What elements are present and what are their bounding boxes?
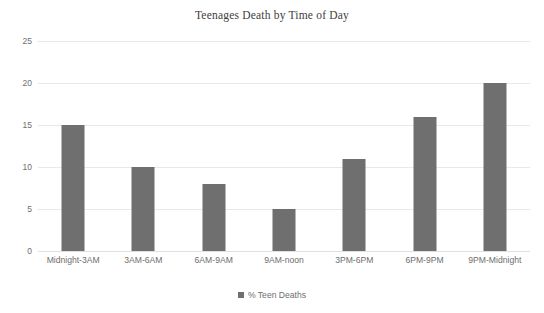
bar-slot (108, 41, 178, 251)
bar-slot (460, 41, 530, 251)
x-axis: Midnight-3AM3AM-6AM6AM-9AM9AM-noon3PM-6P… (38, 256, 530, 272)
gridline (38, 251, 530, 252)
x-axis-tick-label: 3PM-6PM (319, 256, 389, 265)
bar[interactable] (202, 184, 225, 251)
bar-slot (249, 41, 319, 251)
bar[interactable] (62, 125, 85, 251)
x-axis-tick-label: 3AM-6AM (108, 256, 178, 265)
legend-item-label: % Teen Deaths (248, 291, 306, 300)
y-axis-tick-label: 5 (0, 205, 32, 214)
y-axis-tick-label: 20 (0, 79, 32, 88)
bar[interactable] (132, 167, 155, 251)
y-axis: 0510152025 (0, 41, 32, 251)
chart-title: Teenages Death by Time of Day (0, 9, 544, 21)
y-axis-tick-label: 0 (0, 247, 32, 256)
legend-square-marker-icon (238, 292, 244, 298)
bar[interactable] (483, 83, 506, 251)
y-axis-tick-label: 10 (0, 163, 32, 172)
bar[interactable] (272, 209, 295, 251)
x-axis-tick-label: 6PM-9PM (389, 256, 459, 265)
bar-slot (389, 41, 459, 251)
bar-slot (319, 41, 389, 251)
bar-slot (179, 41, 249, 251)
x-axis-tick-label: Midnight-3AM (38, 256, 108, 265)
y-axis-tick-label: 15 (0, 121, 32, 130)
bar-slot (38, 41, 108, 251)
x-axis-tick-label: 9AM-noon (249, 256, 319, 265)
bar[interactable] (343, 159, 366, 251)
plot-area (38, 41, 530, 251)
bar[interactable] (413, 117, 436, 251)
y-axis-tick-label: 25 (0, 37, 32, 46)
chart-legend: % Teen Deaths (0, 291, 544, 300)
x-axis-tick-label: 9PM-Midnight (460, 256, 530, 265)
x-axis-tick-label: 6AM-9AM (179, 256, 249, 265)
bar-chart: Teenages Death by Time of Day 0510152025… (0, 0, 544, 313)
